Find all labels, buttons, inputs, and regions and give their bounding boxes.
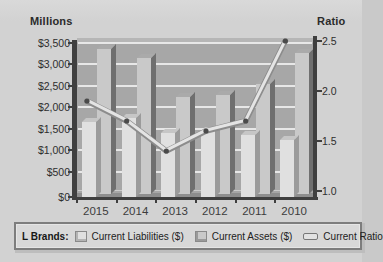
- bar-current-liabilities-2010: [280, 140, 299, 197]
- liabilities-swatch-icon: [75, 231, 87, 242]
- bar-side-face: [230, 90, 235, 194]
- legend: L Brands: Current Liabilities ($) Curren…: [14, 222, 362, 250]
- category-label: 2012: [193, 205, 237, 217]
- right-axis-tick-label: 1.5: [322, 135, 352, 147]
- right-axis-tick: [317, 140, 322, 142]
- bar-current-liabilities-2014: [122, 118, 141, 197]
- category-tick: [235, 200, 237, 203]
- category-tick: [195, 200, 197, 203]
- right-axis-tick: [317, 190, 322, 192]
- bar-current-liabilities-2011: [241, 135, 260, 197]
- bar-side-face: [190, 92, 195, 194]
- category-label: 2014: [114, 205, 158, 217]
- right-axis-tick-label: 1.0: [322, 185, 352, 197]
- category-tick: [116, 200, 118, 203]
- category-label: 2011: [233, 205, 277, 217]
- left-axis-title: Millions: [30, 15, 73, 27]
- assets-swatch-icon: [195, 231, 207, 242]
- left-axis-tick-label: $0: [20, 191, 70, 203]
- bar-side-face: [111, 44, 116, 194]
- legend-title: L Brands:: [22, 231, 69, 242]
- bar-side-face: [215, 126, 220, 197]
- right-axis-tick: [317, 40, 322, 42]
- category-label: 2010: [272, 205, 316, 217]
- category-tick: [274, 200, 276, 203]
- legend-label-current-liabilities: Current Liabilities ($): [92, 231, 184, 242]
- category-tick: [155, 200, 157, 203]
- bar-side-face: [96, 117, 101, 197]
- bar-front-face: [82, 122, 96, 197]
- category-label: 2015: [74, 205, 118, 217]
- legend-label-current-assets: Current Assets ($): [212, 231, 293, 242]
- bar-side-face: [151, 53, 156, 194]
- left-axis-tick-label: $2,500: [20, 80, 70, 92]
- bar-current-liabilities-2012: [201, 131, 220, 197]
- bar-side-face: [294, 135, 299, 197]
- bottom-axis-line: [72, 197, 318, 200]
- bar-current-liabilities-2013: [161, 133, 180, 197]
- bar-front-face: [161, 133, 175, 197]
- left-axis-tick-label: $3,500: [20, 37, 70, 49]
- left-axis-line: [72, 40, 77, 200]
- right-axis-tick-label: 2.5: [322, 35, 352, 47]
- bar-side-face: [270, 79, 275, 194]
- right-axis-title: Ratio: [317, 15, 346, 27]
- right-axis-line: [313, 36, 317, 200]
- legend-label-current-ratio: Current Ratio: [323, 231, 382, 242]
- bar-side-face: [255, 130, 260, 197]
- bar-side-face: [136, 113, 141, 197]
- left-axis-tick-label: $1,500: [20, 123, 70, 135]
- bar-side-face: [175, 128, 180, 197]
- category-tick: [76, 200, 78, 203]
- bar-front-face: [122, 118, 136, 197]
- right-axis-tick-label: 2.0: [322, 85, 352, 97]
- category-label: 2013: [153, 205, 197, 217]
- left-axis-tick-label: $2,000: [20, 101, 70, 113]
- left-axis-tick-label: $3,000: [20, 58, 70, 70]
- ratio-line-swatch-icon: [303, 233, 318, 240]
- left-axis-tick-label: $1,000: [20, 144, 70, 156]
- right-axis-tick: [317, 90, 322, 92]
- bar-front-face: [280, 140, 294, 197]
- bar-front-face: [241, 135, 255, 197]
- bar-front-face: [201, 131, 215, 197]
- bar-current-liabilities-2015: [82, 122, 101, 197]
- left-axis-tick-label: $500: [20, 166, 70, 178]
- gridline: [78, 42, 312, 44]
